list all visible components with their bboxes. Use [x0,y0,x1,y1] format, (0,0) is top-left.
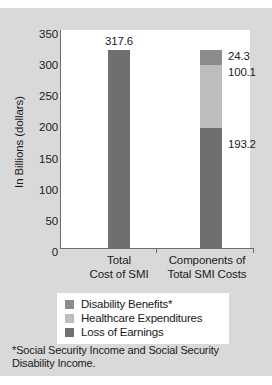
y-axis-tick-250: 250 [0,86,66,98]
segment-value-label: 100.1 [228,66,256,78]
y-axis-line [60,30,61,249]
bar-stack [108,50,130,248]
legend-item-disability-benefits[interactable]: Disability Benefits* [65,297,223,311]
y-axis-tick-200: 200 [0,117,66,129]
x-axis-line [60,248,254,249]
bar-stack: 24.3 100.1 193.2 [200,50,222,248]
bar-segment-loss-of-earnings[interactable]: 193.2 [200,128,222,248]
plot-area: 317.6 24.3 100.1 193.2 [60,30,250,248]
x-axis-label-components-of-total-smi-costs: Components of Total SMI Costs [155,254,259,281]
x-axis-label-line2: Total SMI Costs [155,268,259,282]
bar-value-label: 317.6 [84,35,154,47]
x-axis-tick-mark [253,249,254,253]
legend-swatch-icon [65,300,74,309]
bar-segment-disability-benefits[interactable]: 24.3 [200,50,222,65]
y-axis-tick-350: 350 [0,24,66,36]
segment-value-label: 193.2 [228,138,256,150]
legend-swatch-icon [65,314,74,323]
legend-swatch-icon [65,328,74,337]
legend-label: Loss of Earnings [81,326,163,338]
y-axis-tick-150: 150 [0,149,66,161]
chart-footnote: *Social Security Income and Social Secur… [12,344,260,370]
legend-item-loss-of-earnings[interactable]: Loss of Earnings [65,325,223,339]
bar-segment-total-cost[interactable] [108,50,130,248]
legend-label: Healthcare Expenditures [81,312,202,324]
chart-figure: In Billions (dollars) 350 300 250 200 15… [0,8,272,376]
segment-value-label: 24.3 [228,50,250,62]
bar-segment-healthcare-expenditures[interactable]: 100.1 [200,65,222,127]
x-axis-tick-mark [156,249,157,253]
y-axis-tick-50: 50 [0,211,66,223]
legend-label: Disability Benefits* [81,298,172,310]
y-axis-tick-0: 0 [0,242,66,254]
x-axis-label-line1: Components of [155,254,259,268]
y-axis-tick-300: 300 [0,55,66,67]
chart-legend: Disability Benefits* Healthcare Expendit… [57,293,229,344]
legend-item-healthcare-expenditures[interactable]: Healthcare Expenditures [65,311,223,325]
y-axis-tick-100: 100 [0,180,66,192]
